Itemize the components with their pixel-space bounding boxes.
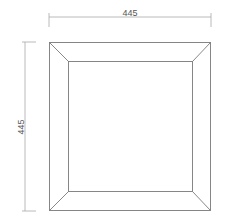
inner-frame <box>69 62 193 192</box>
width-dimension: 445 <box>49 8 211 27</box>
width-label: 445 <box>122 8 137 18</box>
frame-drawing: 445 445 <box>0 0 225 224</box>
outer-frame <box>50 43 211 211</box>
height-dimension: 445 <box>16 42 36 211</box>
height-label: 445 <box>16 119 26 134</box>
mitre-lines <box>50 43 211 211</box>
